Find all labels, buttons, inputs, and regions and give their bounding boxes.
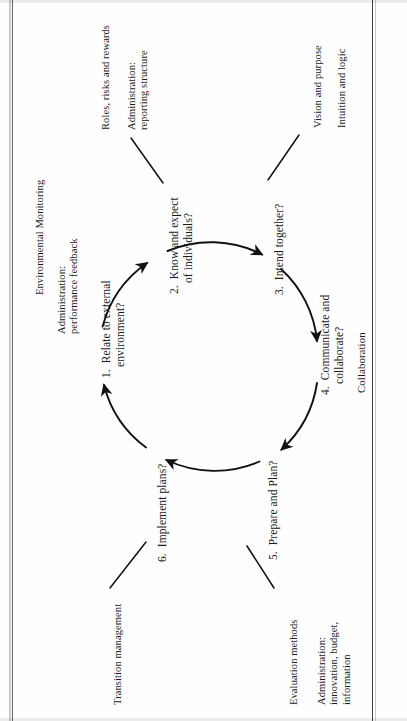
annotation-administration-innovation-line1: Administration:: [316, 622, 328, 705]
annotation-administration-performance-line2: performance feedback: [68, 238, 80, 334]
stage-1-number: 1.: [100, 369, 112, 378]
annotation-administration-reporting-line2: reporting structure: [138, 50, 150, 130]
annotation-environmental-monitoring-line1: Environmental Monitoring: [34, 180, 46, 295]
annotation-administration-performance: Administration: performance feedback: [56, 238, 81, 334]
annotation-transition-management: Transition management: [112, 604, 124, 705]
stage-4-number: 4.: [319, 386, 331, 395]
annotation-intuition-logic: Intuition and logic: [336, 49, 348, 128]
annotation-administration-innovation-line2: innovation, budget,: [328, 622, 340, 705]
arc-stage5-to-stage6: [167, 460, 260, 471]
annotation-vision-purpose: Vision and purpose: [312, 45, 324, 128]
stage-3-number: 3.: [273, 286, 285, 295]
leader-roles-risks-to-stage2: [131, 138, 163, 183]
stage-4-line1: Communicate and: [319, 295, 331, 381]
stage-3-line1: Intend together?: [273, 204, 285, 281]
stage-2-line2: of individuals?: [182, 213, 194, 283]
stage-4-line2: collaborate?: [333, 327, 345, 384]
stage-2-number: 2.: [168, 285, 180, 294]
stage-label-5: 5. Prepare and Plan?: [267, 460, 281, 560]
annotation-administration-innovation: Administration: innovation, budget, info…: [316, 622, 353, 705]
annotation-administration-reporting-line1: Administration:: [126, 50, 138, 130]
annotation-administration-reporting: Administration: reporting structure: [126, 50, 151, 130]
stage-label-1: 1. Relate to external environment?: [100, 280, 127, 378]
leader-vision-purpose-to-stage3: [268, 135, 299, 180]
stage-1-line2: environment?: [114, 303, 126, 367]
annotation-transition-management-line1: Transition management: [112, 604, 124, 705]
leader-transition-to-stage6: [110, 542, 146, 588]
scanned-page: 1. Relate to external environment? 2. Kn…: [0, 0, 407, 721]
annotation-environmental-monitoring: Environmental Monitoring: [34, 180, 46, 295]
annotation-roles-risks-rewards-line1: Roles, risks and rewards: [100, 25, 112, 130]
stage-6-line1: Implement plans?: [156, 464, 168, 548]
annotation-evaluation-methods-line1: Evaluation methods: [288, 620, 300, 706]
stage-label-4: 4. Communicate and collaborate?: [319, 295, 346, 395]
annotation-administration-innovation-line3: information: [341, 622, 353, 705]
stage-label-6: 6. Implement plans?: [156, 464, 170, 562]
annotation-roles-risks-rewards: Roles, risks and rewards: [100, 25, 112, 130]
arc-stage4-to-stage5: [282, 383, 318, 450]
stage-6-number: 6.: [156, 553, 168, 562]
stage-label-3: 3. Intend together?: [273, 204, 287, 295]
stage-label-2: 2. Know and expect of individuals?: [168, 197, 195, 294]
annotation-administration-performance-line1: Administration:: [56, 238, 68, 334]
stage-5-number: 5.: [267, 551, 279, 560]
stage-2-line1: Know and expect: [168, 197, 180, 279]
arc-stage6-to-stage1: [104, 385, 146, 448]
stage-1-line1: Relate to external: [100, 280, 112, 363]
annotation-collaboration: Collaboration: [355, 332, 368, 393]
annotation-evaluation-methods: Evaluation methods: [288, 620, 300, 706]
stage-5-line1: Prepare and Plan?: [267, 460, 279, 545]
annotation-collaboration-line1: Collaboration: [355, 332, 368, 393]
annotation-intuition-logic-line1: Intuition and logic: [336, 49, 348, 128]
annotation-vision-purpose-line1: Vision and purpose: [312, 45, 324, 128]
